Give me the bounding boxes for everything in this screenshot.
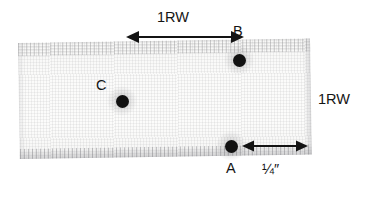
double-arrow-top-icon [126,29,244,45]
dimension-label-top-1rw: 1RW [157,10,189,25]
point-b-label: B [233,24,243,39]
point-c-label: C [96,78,106,93]
double-arrow-bottom-icon [242,138,308,154]
point-b-marker [233,54,246,67]
dimension-label-bottom-quarter-inch: ¼″ [262,162,279,177]
point-a-marker [225,140,238,153]
figure-canvas: 1RW 1RW ¼″ B C A [0,0,369,202]
swatch-left-edge [18,43,26,159]
dimension-label-right-1rw: 1RW [318,92,350,107]
point-c-marker [116,95,129,108]
point-a-label: A [226,161,236,176]
